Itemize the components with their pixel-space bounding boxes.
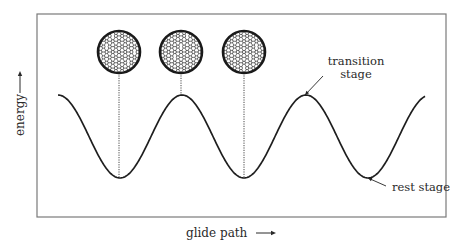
transition-stage-annotation: transitionstage — [305, 54, 385, 95]
x-axis-arrow-icon — [256, 231, 276, 235]
y-axis-label-group: energy — [13, 94, 27, 136]
transition-label-line: transition — [328, 54, 385, 68]
y-axis-arrow-icon — [18, 71, 22, 93]
y-axis-label: energy — [13, 94, 27, 136]
lattice-at-trough-2-icon — [218, 29, 271, 75]
transition-label-line: stage — [340, 67, 372, 81]
energy-diagram: energy glide path transitionstagerest st… — [0, 0, 464, 251]
diagram-canvas: energy glide path transitionstagerest st… — [0, 0, 464, 251]
rest-stage-annotation: rest stage — [368, 178, 450, 194]
rest-label: rest stage — [392, 180, 450, 194]
lattice-at-trough-1-icon — [93, 29, 146, 75]
energy-curve — [58, 95, 425, 178]
x-axis-label: glide path — [186, 226, 248, 240]
lattice-insets — [93, 29, 271, 75]
lattice-at-peak-icon — [155, 29, 208, 75]
